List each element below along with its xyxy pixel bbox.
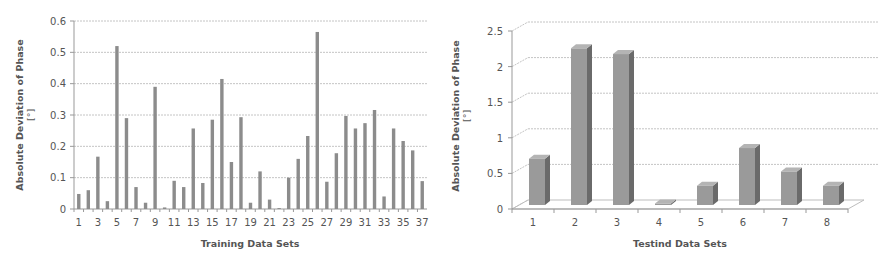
y-tick-label: 0.5 bbox=[50, 47, 66, 58]
bar-training-set-23 bbox=[287, 178, 290, 209]
chart-floor bbox=[512, 200, 864, 209]
bar-testing-set-6 bbox=[739, 144, 760, 205]
x-tick-label: 27 bbox=[320, 217, 333, 228]
y-tick-label: 0.4 bbox=[50, 78, 66, 89]
bar-training-set-19 bbox=[249, 203, 252, 209]
x-tick-label: 29 bbox=[340, 217, 353, 228]
x-tick-label: 13 bbox=[187, 217, 200, 228]
x-tick-label: 5 bbox=[698, 217, 704, 228]
svg-text:Absolute Deviation of Phase: Absolute Deviation of Phase bbox=[450, 40, 461, 191]
x-tick-label: 1 bbox=[76, 217, 82, 228]
bar-training-set-28 bbox=[335, 153, 338, 209]
y-tick-label: 1.5 bbox=[487, 97, 503, 108]
side-wall-gridline bbox=[512, 129, 528, 138]
bar-training-set-3 bbox=[96, 157, 99, 209]
x-tick-label: 35 bbox=[397, 217, 410, 228]
bar-testing-set-8 bbox=[823, 182, 844, 205]
bar-training-set-2 bbox=[87, 190, 90, 209]
x-tick-label: 5 bbox=[114, 217, 120, 228]
x-tick-label: 33 bbox=[378, 217, 391, 228]
bar-training-set-33 bbox=[382, 196, 385, 209]
bar-training-set-14 bbox=[201, 183, 204, 209]
bar-training-set-8 bbox=[144, 203, 147, 209]
x-tick-label: 7 bbox=[782, 217, 788, 228]
bar-testing-set-2 bbox=[571, 44, 592, 205]
x-tick-label: 2 bbox=[572, 217, 578, 228]
testing-chart-canvas: 00.511.522.512345678Testind Data SetsAbs… bbox=[440, 0, 880, 269]
x-tick-label: 23 bbox=[282, 217, 295, 228]
y-axis-title: Absolute Deviation of Phase[°] bbox=[450, 40, 472, 191]
bar-training-set-15 bbox=[211, 120, 214, 209]
y-tick-label: 0.2 bbox=[50, 141, 66, 152]
x-tick-label: 17 bbox=[225, 217, 238, 228]
y-tick-label: 2 bbox=[497, 62, 503, 73]
x-axis-title: Training Data Sets bbox=[201, 238, 300, 249]
bar-training-set-20 bbox=[258, 171, 261, 209]
bar-training-set-6 bbox=[125, 118, 128, 209]
bar-testing-set-7 bbox=[781, 168, 802, 205]
x-tick-label: 3 bbox=[95, 217, 101, 228]
bar-training-set-18 bbox=[239, 117, 242, 209]
y-tick-label: 0.1 bbox=[50, 172, 66, 183]
bar-training-set-35 bbox=[401, 141, 404, 209]
y-tick-label: 1 bbox=[497, 133, 503, 144]
x-tick-label: 11 bbox=[168, 217, 181, 228]
bar-training-set-32 bbox=[373, 110, 376, 209]
bar-training-set-24 bbox=[297, 159, 300, 209]
y-tick-label: 0.6 bbox=[50, 16, 66, 27]
bar-training-set-21 bbox=[268, 200, 271, 209]
side-wall-gridline bbox=[512, 22, 528, 31]
x-tick-label: 7 bbox=[133, 217, 139, 228]
bar-training-set-34 bbox=[392, 128, 395, 209]
x-tick-label: 8 bbox=[824, 217, 830, 228]
bar-training-set-7 bbox=[134, 187, 137, 209]
bar-training-set-1 bbox=[77, 194, 80, 209]
y-axis-title: Absolute Deviation of Phase[°] bbox=[14, 39, 36, 190]
x-axis-title: Testind Data Sets bbox=[633, 238, 727, 249]
training-chart-canvas: 00.10.20.30.40.50.6135791113151719212325… bbox=[0, 0, 440, 269]
bar-training-set-12 bbox=[182, 187, 185, 209]
bar-training-set-16 bbox=[220, 79, 223, 209]
x-tick-label: 19 bbox=[244, 217, 257, 228]
x-tick-label: 6 bbox=[740, 217, 746, 228]
side-wall-gridline bbox=[512, 164, 528, 173]
bar-training-set-11 bbox=[172, 181, 175, 209]
bar-training-set-31 bbox=[363, 123, 366, 209]
x-tick-label: 4 bbox=[656, 217, 662, 228]
bar-training-set-17 bbox=[230, 162, 233, 209]
training-deviation-chart: 00.10.20.30.40.50.6135791113151719212325… bbox=[0, 0, 440, 269]
x-tick-label: 37 bbox=[416, 217, 429, 228]
x-tick-label: 25 bbox=[301, 217, 314, 228]
y-tick-label: 0 bbox=[60, 204, 66, 215]
x-tick-label: 9 bbox=[152, 217, 158, 228]
x-tick-label: 1 bbox=[530, 217, 536, 228]
bar-training-set-36 bbox=[411, 150, 414, 209]
side-wall-gridline bbox=[512, 58, 528, 67]
x-tick-label: 3 bbox=[614, 217, 620, 228]
bar-testing-set-5 bbox=[697, 182, 718, 205]
svg-text:Absolute Deviation of Phase: Absolute Deviation of Phase bbox=[14, 39, 25, 190]
bar-training-set-5 bbox=[115, 46, 118, 209]
bar-training-set-29 bbox=[344, 116, 347, 209]
bar-training-set-30 bbox=[354, 128, 357, 209]
side-wall-gridline bbox=[512, 93, 528, 102]
bar-training-set-13 bbox=[192, 128, 195, 209]
bar-testing-set-3 bbox=[613, 50, 634, 205]
bar-training-set-9 bbox=[153, 87, 156, 209]
y-tick-label: 2.5 bbox=[487, 26, 503, 37]
bar-training-set-25 bbox=[306, 136, 309, 209]
y-tick-label: 0.5 bbox=[487, 168, 503, 179]
bar-training-set-37 bbox=[421, 181, 424, 209]
bar-training-set-22 bbox=[277, 208, 280, 209]
y-tick-label: 0 bbox=[497, 204, 503, 215]
svg-text:[°]: [°] bbox=[25, 109, 36, 121]
bar-training-set-4 bbox=[106, 201, 109, 209]
bar-training-set-27 bbox=[325, 182, 328, 209]
x-tick-label: 21 bbox=[263, 217, 276, 228]
x-tick-label: 15 bbox=[206, 217, 219, 228]
svg-text:[°]: [°] bbox=[461, 110, 472, 122]
testing-deviation-chart: 00.511.522.512345678Testind Data SetsAbs… bbox=[440, 0, 880, 269]
bar-testing-set-1 bbox=[529, 155, 550, 205]
bar-training-set-26 bbox=[316, 32, 319, 209]
y-tick-label: 0.3 bbox=[50, 110, 66, 121]
